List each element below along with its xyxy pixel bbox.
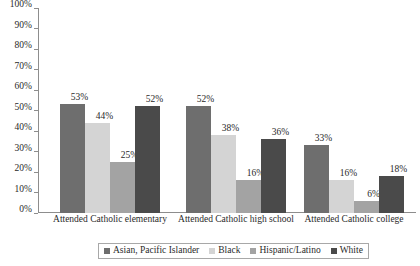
plot-area: 53%44%25%52%52%38%16%36%33%16%6%18% — [38, 8, 412, 213]
bar — [261, 139, 286, 213]
bar-value-label: 18% — [390, 165, 407, 177]
y-axis-tick-label: 50% — [15, 103, 32, 113]
bar-value-label: 38% — [222, 124, 239, 136]
bar-value-label: 44% — [96, 111, 113, 123]
y-axis-tick-label: 20% — [15, 164, 32, 174]
bar — [85, 123, 110, 213]
bar-value-label: 33% — [315, 134, 332, 146]
y-axis-tick-label: 40% — [15, 123, 32, 133]
y-axis-tick-label: 10% — [15, 185, 32, 195]
legend-item: Hispanic/Latino — [250, 246, 320, 256]
bar — [135, 106, 160, 213]
legend-swatch-icon — [331, 248, 337, 254]
bar-value-label: 36% — [272, 128, 289, 140]
legend-item: Black — [209, 246, 240, 256]
legend-item: Asian, Pacific Islander — [104, 246, 199, 256]
bar-group: 52%38%16%36% — [186, 8, 286, 213]
y-axis-tick-label: 80% — [15, 41, 32, 51]
bar — [379, 176, 404, 213]
legend-item: White — [331, 246, 363, 256]
bar-value-label: 52% — [146, 95, 163, 107]
bar — [60, 104, 85, 213]
x-axis-category-label: Attended Catholic college — [304, 215, 403, 225]
bar — [186, 106, 211, 213]
bar — [211, 135, 236, 213]
legend-label: White — [340, 246, 363, 256]
legend-swatch-icon — [209, 248, 215, 254]
legend-label: Hispanic/Latino — [259, 246, 320, 256]
bar-value-label: 16% — [340, 169, 357, 181]
bar-group: 53%44%25%52% — [60, 8, 160, 213]
bar-chart: 0%10%20%30%40%50%60%70%80%90%100% 53%44%… — [0, 0, 420, 266]
bar-value-label: 53% — [71, 93, 88, 105]
bar-value-label: 52% — [197, 95, 214, 107]
bar — [329, 180, 354, 213]
legend-label: Black — [218, 246, 240, 256]
bar — [354, 201, 379, 213]
legend-label: Asian, Pacific Islander — [113, 246, 199, 256]
bar-group: 33%16%6%18% — [304, 8, 404, 213]
x-axis-category-label: Attended Catholic elementary — [53, 215, 167, 225]
bar — [304, 145, 329, 213]
y-axis-tick-label: 0% — [19, 205, 32, 215]
bar — [236, 180, 261, 213]
y-axis-tick-label: 60% — [15, 82, 32, 92]
y-axis-tick-label: 30% — [15, 144, 32, 154]
chart-legend: Asian, Pacific IslanderBlackHispanic/Lat… — [98, 243, 369, 259]
y-axis-tick-label: 70% — [15, 62, 32, 72]
bar-value-label: 6% — [367, 189, 380, 201]
x-axis-category-label: Attended Catholic high school — [178, 215, 294, 225]
y-axis-tick-label: 100% — [10, 0, 32, 10]
legend-swatch-icon — [250, 248, 256, 254]
bar — [110, 162, 135, 213]
legend-swatch-icon — [104, 248, 110, 254]
y-axis-tick-label: 90% — [15, 21, 32, 31]
